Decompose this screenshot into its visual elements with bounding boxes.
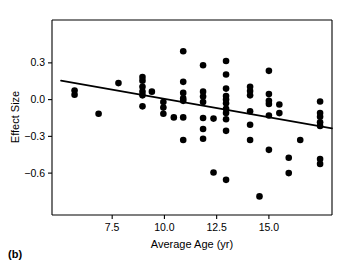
data-point <box>266 91 273 98</box>
data-point <box>317 98 324 105</box>
data-point <box>210 115 217 122</box>
data-point <box>149 88 156 95</box>
data-point <box>317 161 324 168</box>
data-point <box>285 155 292 162</box>
data-point <box>200 126 207 133</box>
data-point <box>180 48 187 55</box>
data-point <box>266 101 273 108</box>
x-tick-label: 7.5 <box>105 221 120 233</box>
scatter-plot: 0.30.0−0.3−0.6 7.510.012.515.0 Effect Si… <box>0 0 348 265</box>
data-point <box>276 110 283 117</box>
data-point <box>276 101 283 108</box>
y-axis-title: Effect Size <box>9 91 21 143</box>
y-tick-label: −0.6 <box>24 167 45 179</box>
data-point <box>200 62 207 69</box>
data-point <box>160 104 167 111</box>
data-point <box>115 80 122 87</box>
data-point <box>180 137 187 144</box>
data-point <box>71 91 78 98</box>
data-point <box>256 193 263 200</box>
y-tick-label: −0.3 <box>24 130 45 142</box>
data-point <box>223 116 230 123</box>
data-point <box>266 147 273 154</box>
data-point <box>210 169 217 176</box>
figure-panel-b: 0.30.0−0.3−0.6 7.510.012.515.0 Effect Si… <box>0 0 348 265</box>
data-point <box>200 136 207 143</box>
data-point <box>223 58 230 65</box>
x-tick-label: 15.0 <box>259 221 280 233</box>
data-point <box>223 71 230 78</box>
data-point <box>247 137 254 144</box>
data-point <box>139 77 146 84</box>
data-point <box>95 110 102 117</box>
data-point <box>297 137 304 144</box>
data-point <box>171 114 178 121</box>
data-point <box>200 115 207 122</box>
x-tick-label: 12.5 <box>206 221 227 233</box>
data-point <box>180 114 187 121</box>
x-tick-label: 10.0 <box>154 221 175 233</box>
data-point <box>200 99 207 106</box>
data-point <box>247 92 254 99</box>
data-point <box>160 110 167 117</box>
data-point <box>223 85 230 92</box>
data-point <box>180 79 187 86</box>
data-point <box>223 128 230 135</box>
data-point <box>223 177 230 184</box>
data-point <box>285 170 292 177</box>
y-tick-label: 0.3 <box>30 56 45 68</box>
data-point <box>247 121 254 128</box>
x-axis-title: Average Age (yr) <box>151 238 233 250</box>
data-point <box>266 68 273 75</box>
data-point <box>139 103 146 110</box>
y-tick-label: 0.0 <box>30 93 45 105</box>
